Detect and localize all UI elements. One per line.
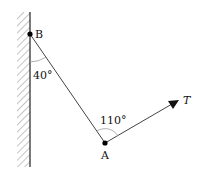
rope-ba [30,34,105,143]
point-a [102,140,107,145]
label-t: T [183,94,192,107]
force-diagram: B A 40° 110° T [0,0,206,180]
angle-arc-b [30,57,46,62]
diagram-svg: B A 40° 110° T [0,0,206,180]
angle-label-b: 40° [33,69,53,82]
angle-arc-a [97,129,118,136]
label-b: B [35,28,43,41]
arrowhead-icon [168,100,179,109]
label-a: A [100,149,110,162]
angle-label-a: 110° [100,114,127,127]
point-b [27,31,32,36]
